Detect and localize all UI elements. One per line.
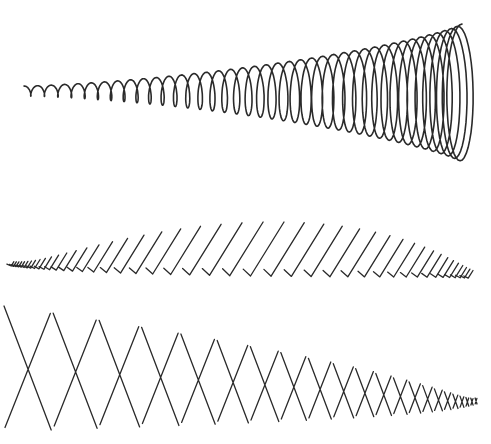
spiral-loop-stroke [24, 24, 473, 161]
check-stroke [388, 243, 415, 277]
check-stroke [358, 236, 390, 277]
cross-stroke [423, 386, 433, 412]
check-stroke [183, 224, 222, 275]
cross-stroke [181, 334, 215, 424]
check-stroke [202, 223, 242, 275]
cross-stroke [53, 313, 97, 428]
check-stroke [323, 229, 360, 277]
cross-stroke [471, 398, 473, 405]
spiral-coil-row [24, 24, 473, 161]
cross-stroke [460, 396, 464, 407]
cross-stroke [333, 364, 353, 418]
cross-stroke [308, 358, 331, 419]
check-stroke [223, 222, 264, 276]
cross-strokes-row [4, 306, 477, 430]
cross-stroke [250, 347, 278, 422]
cross-stroke [142, 327, 179, 425]
drawing-canvas [0, 0, 491, 444]
cross-stroke [4, 306, 51, 430]
check-stroke [400, 247, 424, 277]
cross-stroke [444, 392, 451, 410]
cross-stroke [281, 353, 307, 421]
cross-stroke [376, 374, 392, 416]
cross-stroke [475, 398, 477, 404]
cross-stroke [99, 320, 140, 427]
cross-stroke [466, 398, 469, 407]
check-stroke [304, 226, 342, 276]
cross-stroke [434, 389, 442, 411]
check-stroke [374, 239, 404, 277]
cross-stroke [394, 378, 408, 414]
check-stroke [264, 223, 304, 277]
cross-stroke [453, 394, 458, 408]
cross-stroke [356, 369, 374, 417]
check-stroke [341, 232, 376, 277]
cross-stroke [217, 341, 248, 423]
check-strokes-row [7, 222, 473, 278]
cross-stroke [409, 382, 421, 413]
check-stroke [284, 224, 324, 276]
check-stroke [243, 222, 284, 276]
